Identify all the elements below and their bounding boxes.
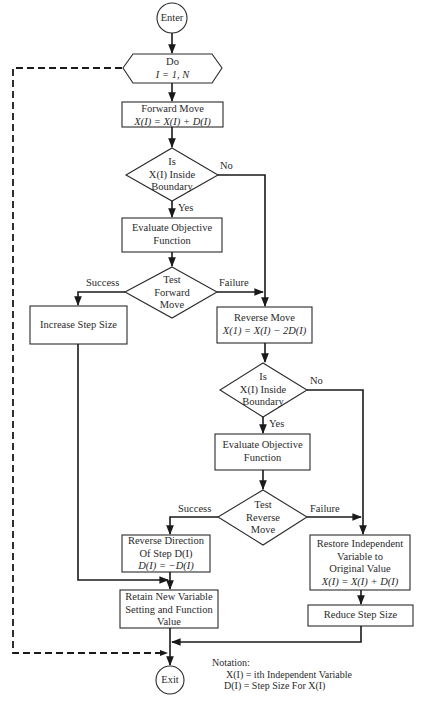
do-loop-label: Do I = 1, N <box>133 56 212 81</box>
inside-boundary-2-label: Is X(I) Inside Boundary <box>223 371 303 409</box>
evaluate-2-label: Evaluate Objective Function <box>215 439 310 464</box>
inside-boundary-2-line2: X(I) Inside <box>223 384 303 397</box>
edge-label-no-1: No <box>220 160 233 171</box>
test-reverse-line3: Move <box>223 524 303 537</box>
reverse-move-line1: Reverse Move <box>217 312 312 325</box>
retain-line1: Retain New Variable <box>120 591 218 604</box>
edge-testforward-success <box>78 292 125 305</box>
reverse-move-line2: X(1) = X(I) − 2D(I) <box>217 325 312 338</box>
exit-label: Exit <box>156 674 184 687</box>
restore-line4: X(I) = X(I) + D(I) <box>310 576 410 589</box>
notation-line2: D(I) = Step Size For X(I) <box>212 680 352 692</box>
restore-line1: Restore Independent <box>310 538 410 551</box>
edge-label-failure-2: Failure <box>310 503 340 514</box>
edge-label-success-1: Success <box>86 277 119 288</box>
increase-step-label: Increase Step Size <box>30 319 127 332</box>
test-reverse-line1: Test <box>223 499 303 512</box>
restore-label: Restore Independent Variable to Original… <box>310 538 410 588</box>
test-forward-line1: Test <box>132 274 212 287</box>
inside-boundary-2-line3: Boundary <box>223 396 303 409</box>
notation-title: Notation: <box>212 657 352 669</box>
flowchart-canvas: Enter Do I = 1, N Forward Move X(I) = X(… <box>0 0 427 704</box>
edge-testreverse-success <box>170 517 218 534</box>
evaluate-1-line2: Function <box>122 235 222 248</box>
reduce-step-label: Reduce Step Size <box>308 609 413 622</box>
edge-label-success-2: Success <box>178 503 211 514</box>
inside-boundary-1-line1: Is <box>132 156 212 169</box>
test-forward-line2: Forward <box>132 287 212 300</box>
reverse-direction-line3: D(I) = −D(I) <box>122 560 210 573</box>
evaluate-2-line1: Evaluate Objective <box>215 439 310 452</box>
inside-boundary-2-line1: Is <box>223 371 303 384</box>
notation-block: Notation: X(I) = ith Independent Variabl… <box>212 657 352 692</box>
reverse-move-label: Reverse Move X(1) = X(I) − 2D(I) <box>217 312 312 337</box>
test-forward-label: Test Forward Move <box>132 274 212 312</box>
reverse-direction-label: Reverse Direction Of Step D(I) D(I) = −D… <box>122 535 210 573</box>
inside-boundary-1-line2: X(I) Inside <box>132 169 212 182</box>
edge-label-failure-1: Failure <box>219 277 249 288</box>
evaluate-1-label: Evaluate Objective Function <box>122 222 222 247</box>
notation-line1: X(I) = ith Independent Variable <box>212 669 352 681</box>
retain-label: Retain New Variable Setting and Function… <box>120 591 218 629</box>
reverse-direction-line1: Reverse Direction <box>122 535 210 548</box>
edge-label-yes-1: Yes <box>178 202 193 213</box>
do-loop-line2: I = 1, N <box>133 69 212 82</box>
test-reverse-line2: Reverse <box>223 512 303 525</box>
do-loop-line1: Do <box>133 56 212 69</box>
forward-move-label: Forward Move X(I) = X(I) + D(I) <box>122 103 223 128</box>
test-forward-line3: Move <box>132 299 212 312</box>
inside-boundary-1-label: Is X(I) Inside Boundary <box>132 156 212 194</box>
enter-label: Enter <box>157 12 187 25</box>
edge-label-yes-2: Yes <box>269 418 284 429</box>
reverse-direction-line2: Of Step D(I) <box>122 548 210 561</box>
inside-boundary-1-line3: Boundary <box>132 181 212 194</box>
evaluate-2-line2: Function <box>215 452 310 465</box>
evaluate-1-line1: Evaluate Objective <box>122 222 222 235</box>
forward-move-line1: Forward Move <box>122 103 223 116</box>
retain-line3: Value <box>120 616 218 629</box>
restore-line2: Variable to <box>310 551 410 564</box>
dashed-arrowhead <box>160 650 168 656</box>
edge-label-no-2: No <box>310 375 323 386</box>
forward-move-line2: X(I) = X(I) + D(I) <box>122 116 223 129</box>
retain-line2: Setting and Function <box>120 604 218 617</box>
restore-line3: Original Value <box>310 563 410 576</box>
test-reverse-label: Test Reverse Move <box>223 499 303 537</box>
